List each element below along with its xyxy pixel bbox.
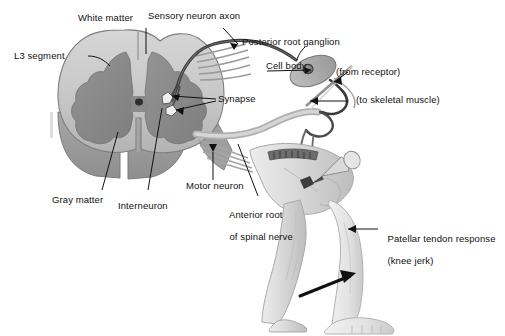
- label-posterior-root-ganglion: Posterior root ganglion: [242, 36, 340, 47]
- label-synapse: Synapse: [218, 93, 256, 104]
- figure-canvas: White matter Sensory neuron axon Posteri…: [0, 0, 505, 336]
- artist-signature: [50, 112, 53, 138]
- label-motor-neuron: Motor neuron: [186, 180, 244, 191]
- central-canal: [135, 99, 143, 106]
- label-sensory-neuron-axon: Sensory neuron axon: [148, 10, 240, 21]
- label-patellar-line1: Patellar tendon response: [387, 233, 495, 244]
- label-cell-body: Cell body: [266, 60, 307, 71]
- label-anterior-root-line1: Anterior root: [229, 209, 283, 220]
- label-to-skeletal-muscle: (to skeletal muscle): [356, 94, 440, 105]
- label-l3-segment: L3 segment: [14, 50, 65, 61]
- label-anterior-root-line2: of spinal nerve: [229, 231, 292, 242]
- anatomy-illustration: [0, 0, 505, 336]
- label-white-matter: White matter: [78, 12, 133, 23]
- label-patellar-tendon-response: Patellar tendon response (knee jerk): [382, 222, 496, 266]
- leg-extended: [324, 200, 394, 334]
- label-anterior-root: Anterior root of spinal nerve: [224, 198, 293, 242]
- label-patellar-line2: (knee jerk): [387, 255, 433, 266]
- leader-ganglion: [297, 47, 305, 60]
- label-gray-matter: Gray matter: [52, 194, 103, 205]
- label-interneuron: Interneuron: [118, 200, 168, 211]
- label-from-receptor: (from receptor): [336, 66, 400, 77]
- spinal-cord-cross-section: [50, 30, 232, 179]
